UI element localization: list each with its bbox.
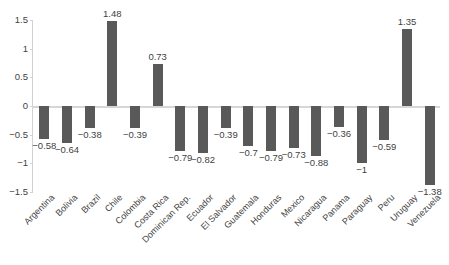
x-axis-category-label: Bolivia [54,193,79,218]
y-axis-tick-label: 0.5 [0,73,28,83]
bar[interactable] [107,21,117,106]
bar-value-label: −0.79 [259,153,283,163]
x-axis-category-label: Argentina [23,193,57,227]
bar-value-label: 0.73 [148,52,167,62]
bar[interactable] [175,106,185,151]
bar[interactable] [425,106,435,185]
bar-value-label: −0.79 [168,153,192,163]
bar-value-label: −0.7 [239,148,258,158]
bar-value-label: −1 [356,165,367,175]
bar[interactable] [39,106,49,139]
bar[interactable] [357,106,367,163]
bar[interactable] [85,106,95,128]
bar[interactable] [402,29,412,106]
bar[interactable] [153,64,163,106]
bar[interactable] [289,106,299,148]
bar[interactable] [130,106,140,128]
bar[interactable] [334,106,344,127]
bar-value-label: −0.59 [372,142,396,152]
y-axis-tick-label: −1 [0,159,28,169]
bar-value-label: −0.38 [78,130,102,140]
y-axis-tick-label: 1 [0,44,28,54]
y-axis-tick-label: 1.5 [0,15,28,25]
bar-value-label: 1.48 [103,9,122,19]
y-axis-tick-label: 0 [0,101,28,111]
bar[interactable] [266,106,276,151]
bar-chart: 1.510.50−0.5−1−1.5 −0.58−0.64−0.381.48−0… [0,0,449,265]
plot-area: −0.58−0.64−0.381.48−0.390.73−0.79−0.82−0… [32,20,440,192]
x-axis-category-labels: ArgentinaBoliviaBrazilChileColombiaCosta… [32,193,440,263]
bar[interactable] [379,106,389,140]
bar[interactable] [311,106,321,156]
bar[interactable] [198,106,208,153]
bar-value-label: −0.39 [123,130,147,140]
y-axis-tick-label: −1.5 [0,187,28,197]
bar-value-label: −0.58 [32,141,56,151]
bar-value-label: −0.64 [55,145,79,155]
bar[interactable] [62,106,72,143]
bar-value-label: −0.88 [304,158,328,168]
bar-value-label: 1.35 [398,17,417,27]
x-axis-category-label: Brazil [80,193,102,215]
y-axis-tick-label: −0.5 [0,130,28,140]
bar-value-label: −0.39 [214,130,238,140]
bar-value-label: −0.73 [282,150,306,160]
bar[interactable] [243,106,253,146]
bar-value-label: −0.82 [191,155,215,165]
bar[interactable] [221,106,231,128]
bar-value-label: −0.36 [327,129,351,139]
